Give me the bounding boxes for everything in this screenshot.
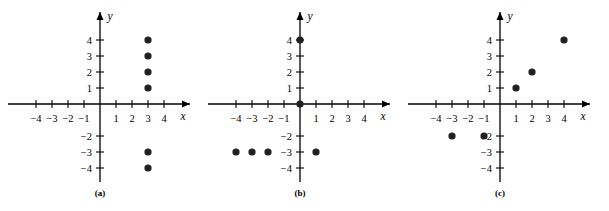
svg-text:1: 1 (487, 83, 492, 94)
svg-text:2: 2 (487, 67, 492, 78)
data-point (560, 36, 567, 43)
y-axis-arrow (297, 12, 304, 20)
svg-text:−3: −3 (246, 113, 257, 124)
data-point (512, 84, 519, 91)
x-axis-arrow (582, 101, 590, 108)
svg-text:−2: −2 (262, 113, 273, 124)
data-point (144, 52, 151, 59)
x-tick-labels-b: −4 −3 −2 −1 1 2 3 4 (230, 113, 367, 124)
svg-text:1: 1 (313, 113, 318, 124)
scatter-plot-a: −4 −3 −2 −1 1 2 3 4 4 3 2 1 −2 −3 (0, 0, 200, 190)
panel-a: −4 −3 −2 −1 1 2 3 4 4 3 2 1 −2 −3 (0, 0, 200, 211)
svg-text:3: 3 (345, 113, 350, 124)
svg-text:−3: −3 (481, 147, 492, 158)
svg-text:−2: −2 (281, 131, 292, 142)
figure-container: −4 −3 −2 −1 1 2 3 4 4 3 2 1 −2 −3 (0, 0, 609, 211)
svg-text:4: 4 (487, 35, 493, 46)
data-point (144, 148, 151, 155)
x-axis-arrow (382, 101, 390, 108)
data-point (480, 132, 487, 139)
svg-text:2: 2 (329, 113, 334, 124)
svg-text:2: 2 (529, 113, 534, 124)
panel-b: −4 −3 −2 −1 1 2 3 4 4 3 2 1 −2 −3 −4 (200, 0, 400, 211)
data-point (144, 164, 151, 171)
panel-c: −4 −3 −2 −1 1 2 3 4 4 3 2 1 −2 −3 −4 (400, 0, 600, 211)
svg-text:−2: −2 (62, 113, 73, 124)
data-point (144, 68, 151, 75)
data-point (264, 148, 271, 155)
svg-text:−2: −2 (81, 131, 92, 142)
y-axis-label-b: y (306, 10, 313, 23)
svg-text:2: 2 (287, 67, 292, 78)
data-points-b (232, 36, 319, 155)
svg-text:3: 3 (145, 113, 150, 124)
svg-text:3: 3 (545, 113, 550, 124)
svg-text:1: 1 (513, 113, 518, 124)
svg-text:4: 4 (561, 113, 567, 124)
svg-text:3: 3 (287, 51, 292, 62)
svg-text:1: 1 (287, 83, 292, 94)
svg-text:4: 4 (287, 35, 293, 46)
svg-text:−1: −1 (278, 113, 289, 124)
svg-text:−1: −1 (478, 113, 489, 124)
svg-text:−4: −4 (430, 113, 442, 124)
svg-text:−3: −3 (446, 113, 457, 124)
svg-text:−4: −4 (281, 163, 293, 174)
x-axis-arrow (182, 101, 190, 108)
data-point (528, 68, 535, 75)
svg-text:4: 4 (361, 113, 367, 124)
panel-b-plot: −4 −3 −2 −1 1 2 3 4 4 3 2 1 −2 −3 −4 (200, 0, 400, 190)
svg-text:−3: −3 (46, 113, 57, 124)
data-point (144, 36, 151, 43)
svg-text:−4: −4 (81, 163, 93, 174)
svg-text:1: 1 (113, 113, 118, 124)
svg-text:−1: −1 (78, 113, 89, 124)
panel-caption-b: (b) (200, 188, 400, 198)
svg-text:−4: −4 (481, 163, 493, 174)
svg-text:−4: −4 (30, 113, 42, 124)
data-point (232, 148, 239, 155)
y-axis-arrow (97, 12, 104, 20)
svg-text:4: 4 (87, 35, 93, 46)
svg-text:3: 3 (487, 51, 492, 62)
svg-text:1: 1 (87, 83, 92, 94)
x-tick-labels-c: −4 −3 −2 −1 1 2 3 4 (430, 113, 567, 124)
svg-text:3: 3 (87, 51, 92, 62)
x-axis-label-b: x (379, 110, 386, 122)
panel-c-plot: −4 −3 −2 −1 1 2 3 4 4 3 2 1 −2 −3 −4 (400, 0, 600, 190)
svg-text:−3: −3 (81, 147, 92, 158)
y-axis-label-a: y (106, 10, 113, 23)
data-point (144, 84, 151, 91)
panel-caption-a: (a) (0, 188, 200, 198)
svg-text:2: 2 (129, 113, 134, 124)
data-point (248, 148, 255, 155)
data-point (312, 148, 319, 155)
data-point (296, 100, 303, 107)
svg-text:−3: −3 (281, 147, 292, 158)
scatter-plot-b: −4 −3 −2 −1 1 2 3 4 4 3 2 1 −2 −3 −4 (200, 0, 400, 190)
scatter-plot-c: −4 −3 −2 −1 1 2 3 4 4 3 2 1 −2 −3 −4 (400, 0, 600, 190)
x-tick-labels-a: −4 −3 −2 −1 1 2 3 4 (30, 113, 167, 124)
svg-text:4: 4 (161, 113, 167, 124)
y-axis-arrow (497, 12, 504, 20)
panel-caption-c: (c) (400, 188, 600, 198)
x-axis-label-c: x (579, 110, 586, 122)
data-points-c (448, 36, 567, 139)
data-point (448, 132, 455, 139)
panel-a-plot: −4 −3 −2 −1 1 2 3 4 4 3 2 1 −2 −3 (0, 0, 200, 190)
x-axis-label-a: x (179, 110, 186, 122)
svg-text:−4: −4 (230, 113, 242, 124)
svg-text:2: 2 (87, 67, 92, 78)
y-axis-label-c: y (506, 10, 513, 23)
data-point (296, 36, 303, 43)
svg-text:−2: −2 (462, 113, 473, 124)
